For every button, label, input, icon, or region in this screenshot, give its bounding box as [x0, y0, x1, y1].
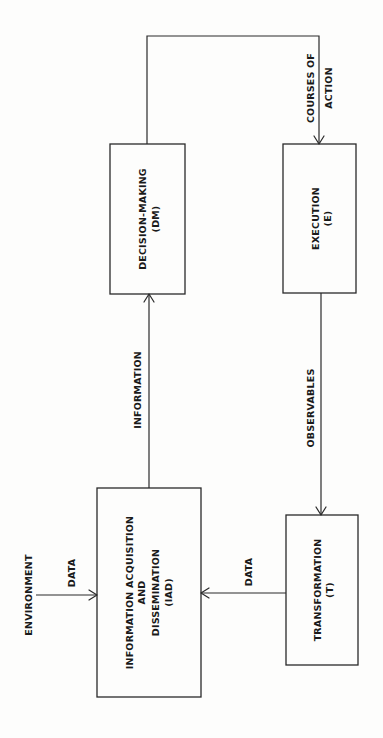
edge-dm-to-e: COURSES OF ACTION [147, 36, 334, 144]
t-label-line1: TRANSFORMATION [312, 539, 323, 642]
edge-env-to-iad: ENVIRONMENT DATA [23, 554, 97, 636]
node-iad: INFORMATION ACQUISITION AND DISSEMINATIO… [97, 488, 201, 697]
edge-e-to-t: OBSERVABLES [305, 293, 326, 515]
t-data-label: DATA [243, 557, 254, 586]
observables-label: OBSERVABLES [305, 369, 316, 448]
iad-label-line3: DISSEMINATION [150, 549, 161, 636]
action-label: ACTION [323, 67, 334, 109]
node-dm: DECISION-MAKING (DM) [110, 144, 185, 294]
iad-box [97, 488, 201, 697]
dm-box [110, 144, 185, 294]
information-label: INFORMATION [132, 351, 143, 429]
courses-of-action-line [147, 36, 319, 144]
diagram-canvas: INFORMATION ACQUISITION AND DISSEMINATIO… [0, 0, 383, 738]
edge-iad-to-dm: INFORMATION [132, 294, 154, 488]
courses-of-label: COURSES OF [305, 53, 316, 123]
node-e: EXECUTION (E) [283, 144, 356, 293]
environment-label: ENVIRONMENT [23, 554, 34, 636]
iad-label-line4: (IAD) [163, 578, 174, 606]
e-label-line2: (E) [322, 211, 333, 227]
t-label-line2: (T) [324, 582, 335, 598]
dm-label-line2: (DM) [150, 206, 161, 233]
flow-diagram: INFORMATION ACQUISITION AND DISSEMINATIO… [0, 0, 383, 738]
edge-t-to-iad: DATA [201, 557, 286, 598]
env-data-label: DATA [66, 558, 77, 587]
iad-label-line2: AND [136, 581, 147, 605]
iad-label-line1: INFORMATION ACQUISITION [124, 516, 135, 669]
e-label-line1: EXECUTION [310, 187, 321, 250]
dm-label-line1: DECISION-MAKING [137, 168, 148, 270]
node-t: TRANSFORMATION (T) [286, 515, 358, 665]
